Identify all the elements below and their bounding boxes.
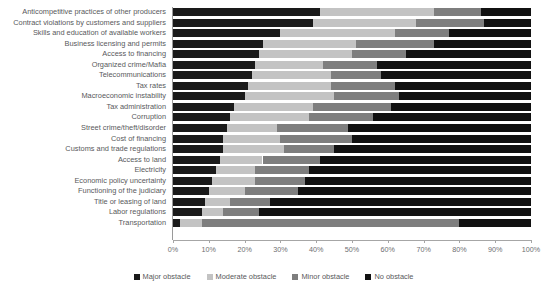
bar-segment (173, 145, 223, 153)
x-tick-label: 0% (168, 245, 178, 254)
bar-segment (245, 92, 335, 100)
bar-segment (248, 82, 330, 90)
legend-item: Minor obstacle (292, 272, 349, 281)
bar-segment (399, 92, 531, 100)
bar-segment (459, 219, 531, 227)
bar-segment (391, 103, 531, 111)
x-tick-label: 50% (345, 245, 359, 254)
bar-segment (234, 103, 313, 111)
bar-segment (255, 177, 305, 185)
stacked-bar (173, 208, 531, 216)
bar-segment (434, 8, 481, 16)
stacked-bar (173, 145, 531, 153)
category-label: Title or leasing of land (0, 197, 170, 208)
legend-swatch-icon (134, 274, 140, 280)
bar-segment (173, 124, 227, 132)
x-tick-label: 30% (273, 245, 287, 254)
bar-segment (309, 113, 373, 121)
bar-segment (230, 113, 309, 121)
plot-area (173, 7, 531, 240)
stacked-bar (173, 8, 531, 16)
legend-swatch-icon (207, 274, 213, 280)
bar-row (173, 155, 531, 166)
bar-segment (259, 50, 352, 58)
x-tick-label: 10% (202, 245, 216, 254)
stacked-bar (173, 113, 531, 121)
bar-segment (173, 113, 230, 121)
bar-segment (373, 113, 531, 121)
bar-segment (334, 145, 531, 153)
bar-segment (209, 187, 245, 195)
bar-row (173, 28, 531, 39)
bar-segment (173, 19, 313, 27)
bar-segment (481, 8, 531, 16)
x-tick-mark (209, 240, 210, 243)
bar-segment (180, 219, 201, 227)
x-tick-mark (316, 240, 317, 243)
bar-segment (270, 198, 531, 206)
bar-segment (381, 71, 531, 79)
bar-segment (252, 71, 331, 79)
x-tick-label: 100% (522, 245, 540, 254)
bar-segment (173, 82, 248, 90)
bar-segment (334, 92, 398, 100)
bar-segment (323, 61, 377, 69)
x-tick-mark (352, 240, 353, 243)
bar-row (173, 7, 531, 18)
chart-legend: Major obstacleModerate obstacleMinor obs… (0, 272, 547, 281)
bar-segment (223, 208, 259, 216)
bar-row (173, 112, 531, 123)
bar-segment (356, 40, 435, 48)
stacked-bar (173, 29, 531, 37)
stacked-bar-chart: Anticompetitive practices of other produ… (0, 0, 547, 297)
bar-segment (313, 103, 392, 111)
bar-segment (263, 40, 356, 48)
x-tick-mark (173, 240, 174, 243)
bar-segment (416, 19, 484, 27)
bar-row (173, 70, 531, 81)
category-label: Telecommunications (0, 70, 170, 81)
stacked-bar (173, 92, 531, 100)
bar-row (173, 81, 531, 92)
category-label: Anticompetitive practices of other produ… (0, 7, 170, 18)
bar-segment (280, 135, 352, 143)
category-label: Access to land (0, 155, 170, 166)
bar-segment (173, 92, 245, 100)
bar-segment (313, 19, 417, 27)
x-tick-mark (245, 240, 246, 243)
bar-segment (173, 208, 202, 216)
x-tick-label: 60% (381, 245, 395, 254)
bar-segment (255, 166, 309, 174)
category-label: Access to financing (0, 49, 170, 60)
bar-row (173, 123, 531, 134)
stacked-bar (173, 50, 531, 58)
bar-row (173, 165, 531, 176)
bar-segment (377, 61, 531, 69)
x-tick-label: 70% (416, 245, 430, 254)
category-label: Tax rates (0, 81, 170, 92)
bar-segment (173, 50, 259, 58)
category-label: Functioning of the judiciary (0, 186, 170, 197)
bar-row (173, 207, 531, 218)
x-tick-label: 90% (488, 245, 502, 254)
x-tick-label: 80% (452, 245, 466, 254)
bar-row (173, 91, 531, 102)
stacked-bar (173, 124, 531, 132)
bar-row (173, 49, 531, 60)
bar-segment (395, 29, 449, 37)
bar-row (173, 176, 531, 187)
x-tick-mark (459, 240, 460, 243)
legend-swatch-icon (292, 274, 298, 280)
bar-segment (173, 219, 180, 227)
legend-label: Major obstacle (143, 272, 191, 281)
bar-segment (298, 187, 531, 195)
bar-segment (202, 219, 460, 227)
x-tick-mark (388, 240, 389, 243)
stacked-bar (173, 198, 531, 206)
stacked-bar (173, 156, 531, 164)
stacked-bar (173, 135, 531, 143)
x-tick-label: 40% (309, 245, 323, 254)
bar-segment (230, 198, 269, 206)
bar-segment (223, 135, 280, 143)
bar-segment (406, 50, 531, 58)
